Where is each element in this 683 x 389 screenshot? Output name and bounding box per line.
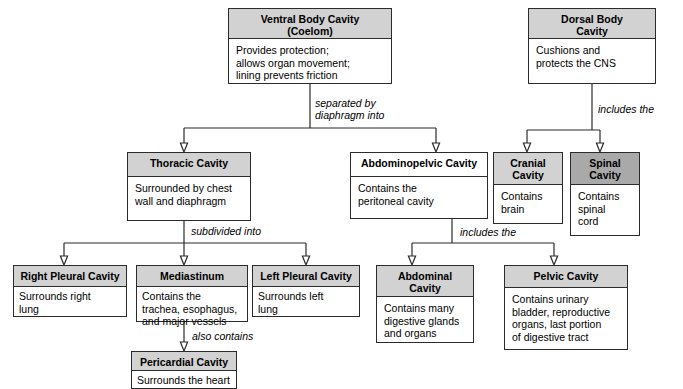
- node-abdominopelvic-cavity[interactable]: Abdominopelvic Cavity Contains the perit…: [350, 152, 488, 219]
- body-line-1: Contains: [501, 190, 556, 203]
- node-header-pericardial-cavity: Pericardial Cavity: [132, 352, 236, 371]
- body-line-2: trachea, esophagus,: [142, 303, 242, 316]
- edge-label-line-2: diaphragm into: [315, 109, 384, 121]
- header-line-1: Pelvic Cavity: [508, 270, 624, 282]
- node-header-pelvic-cavity: Pelvic Cavity: [505, 266, 627, 288]
- node-thoracic-cavity[interactable]: Thoracic Cavity Surrounded by chest wall…: [127, 152, 251, 221]
- node-mediastinum[interactable]: Mediastinum Contains the trachea, esopha…: [136, 265, 248, 322]
- edge-label-includes-the-abdominopelvic: includes the: [460, 226, 516, 238]
- header-line-1: Spinal: [574, 157, 636, 169]
- edge-label-separated-by-diaphragm: separated by diaphragm into: [315, 97, 384, 121]
- body-line-1: Surrounds left: [258, 290, 354, 303]
- header-line-1: Abdominopelvic Cavity: [354, 157, 484, 169]
- node-left-pleural-cavity[interactable]: Left Pleural Cavity Surrounds left lung: [252, 265, 360, 317]
- node-body-cranial-cavity: Contains brain: [494, 185, 562, 220]
- node-body-pelvic-cavity: Contains urinary bladder, reproductive o…: [505, 288, 627, 348]
- node-header-left-pleural-cavity: Left Pleural Cavity: [253, 266, 359, 287]
- node-ventral-body-cavity[interactable]: Ventral Body Cavity (Coelom) Provides pr…: [228, 8, 392, 84]
- body-line-2: lung: [258, 303, 354, 316]
- node-body-pericardial-cavity: Surrounds the heart: [132, 371, 236, 389]
- node-body-left-pleural-cavity: Surrounds left lung: [253, 287, 359, 318]
- body-line-3: and organs: [384, 327, 467, 340]
- node-header-spinal-cavity: Spinal Cavity: [571, 153, 639, 185]
- body-line-2: bladder, reproductive: [512, 306, 621, 319]
- header-line-1: Mediastinum: [140, 270, 244, 282]
- header-line-1: Dorsal Body: [532, 13, 652, 25]
- body-line-2: spinal: [578, 203, 633, 216]
- node-header-dorsal-body-cavity: Dorsal Body Cavity: [529, 9, 655, 39]
- body-line-2: lung: [19, 303, 121, 316]
- body-line-2: protects the CNS: [536, 57, 649, 70]
- node-right-pleural-cavity[interactable]: Right Pleural Cavity Surrounds right lun…: [13, 265, 127, 317]
- header-line-1: Thoracic Cavity: [131, 157, 247, 169]
- body-line-1: Surrounds the heart: [137, 374, 231, 387]
- edge-label-includes-the-dorsal: includes the: [598, 103, 654, 115]
- body-line-3: organs, last portion: [512, 318, 621, 331]
- body-line-1: Contains many: [384, 302, 467, 315]
- node-pelvic-cavity[interactable]: Pelvic Cavity Contains urinary bladder, …: [504, 265, 628, 350]
- node-spinal-cavity[interactable]: Spinal Cavity Contains spinal cord: [570, 152, 640, 236]
- body-line-3: cord: [578, 215, 633, 228]
- body-line-1: Contains the: [142, 290, 242, 303]
- header-line-2: Cavity: [574, 169, 636, 181]
- body-line-2: peritoneal cavity: [358, 195, 481, 208]
- node-body-abdominopelvic-cavity: Contains the peritoneal cavity: [351, 177, 487, 212]
- header-line-1: Abdominal: [380, 270, 470, 282]
- node-body-ventral-body-cavity: Provides protection; allows organ moveme…: [229, 39, 391, 87]
- body-line-1: Cushions and: [536, 44, 649, 57]
- body-line-2: wall and diaphragm: [135, 195, 244, 208]
- node-cranial-cavity[interactable]: Cranial Cavity Contains brain: [493, 152, 563, 224]
- body-line-1: Contains urinary: [512, 293, 621, 306]
- header-line-1: Left Pleural Cavity: [256, 270, 356, 282]
- node-header-ventral-body-cavity: Ventral Body Cavity (Coelom): [229, 9, 391, 39]
- node-header-abdominopelvic-cavity: Abdominopelvic Cavity: [351, 153, 487, 177]
- node-dorsal-body-cavity[interactable]: Dorsal Body Cavity Cushions and protects…: [528, 8, 656, 84]
- edge-label-line-1: separated by: [315, 97, 384, 109]
- body-line-4: of digestive tract: [512, 331, 621, 344]
- header-line-2: (Coelom): [232, 25, 388, 37]
- node-body-dorsal-body-cavity: Cushions and protects the CNS: [529, 39, 655, 74]
- node-pericardial-cavity[interactable]: Pericardial Cavity Surrounds the heart: [131, 351, 237, 389]
- node-body-right-pleural-cavity: Surrounds right lung: [14, 287, 126, 318]
- node-body-abdominal-cavity: Contains many digestive glands and organ…: [377, 297, 473, 345]
- node-body-thoracic-cavity: Surrounded by chest wall and diaphragm: [128, 177, 250, 212]
- body-line-1: Contains: [578, 190, 633, 203]
- body-cavities-diagram: Ventral Body Cavity (Coelom) Provides pr…: [0, 0, 683, 389]
- header-line-1: Pericardial Cavity: [135, 356, 233, 368]
- node-header-right-pleural-cavity: Right Pleural Cavity: [14, 266, 126, 287]
- body-line-1: Contains the: [358, 182, 481, 195]
- body-line-2: allows organ movement;: [236, 57, 385, 70]
- header-line-2: Cavity: [380, 282, 470, 294]
- node-body-spinal-cavity: Contains spinal cord: [571, 185, 639, 233]
- edge-label-also-contains: also contains: [192, 330, 253, 342]
- edge-label-subdivided-into: subdivided into: [191, 225, 261, 237]
- body-line-2: brain: [501, 203, 556, 216]
- body-line-1: Provides protection;: [236, 44, 385, 57]
- node-body-mediastinum: Contains the trachea, esophagus, and maj…: [137, 287, 247, 331]
- node-header-thoracic-cavity: Thoracic Cavity: [128, 153, 250, 177]
- header-line-2: Cavity: [532, 25, 652, 37]
- node-abdominal-cavity[interactable]: Abdominal Cavity Contains many digestive…: [376, 265, 474, 343]
- body-line-1: Surrounds right: [19, 290, 121, 303]
- node-header-mediastinum: Mediastinum: [137, 266, 247, 287]
- body-line-2: digestive glands: [384, 315, 467, 328]
- node-header-cranial-cavity: Cranial Cavity: [494, 153, 562, 185]
- header-line-2: Cavity: [497, 169, 559, 181]
- node-header-abdominal-cavity: Abdominal Cavity: [377, 266, 473, 297]
- header-line-1: Ventral Body Cavity: [232, 13, 388, 25]
- body-line-3: lining prevents friction: [236, 69, 385, 82]
- header-line-1: Right Pleural Cavity: [17, 270, 123, 282]
- body-line-1: Surrounded by chest: [135, 182, 244, 195]
- body-line-3: and major vessels: [142, 315, 242, 328]
- header-line-1: Cranial: [497, 157, 559, 169]
